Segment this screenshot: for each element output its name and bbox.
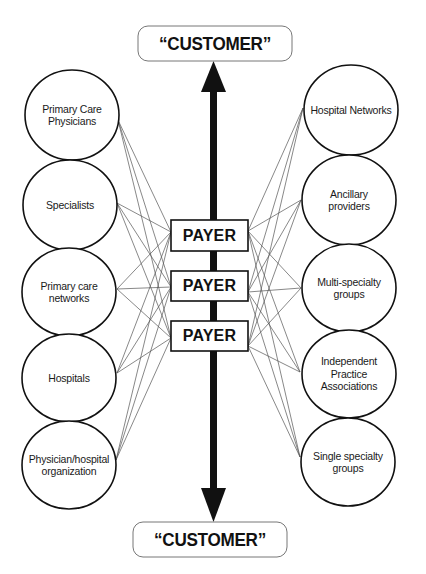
connector-line — [248, 231, 300, 457]
connector-line — [248, 200, 301, 231]
connector-line — [117, 203, 171, 338]
connector-line — [117, 287, 171, 289]
connector-line — [248, 108, 303, 231]
connector-line — [118, 120, 171, 232]
right-node-ancillary-providers: Ancillary providers — [306, 155, 392, 245]
connector-line — [248, 292, 300, 372]
connector-line — [116, 338, 171, 460]
left-node-specialists: Specialists — [27, 160, 113, 250]
connector-line — [117, 287, 171, 373]
payer-box-label: PAYER — [171, 321, 248, 351]
left-node-physician-hospital-organization: Physician/hospital organization — [26, 421, 112, 509]
right-node-multi-specialty-groups: Multi-specialty groups — [306, 244, 392, 332]
arrow-head-down-icon — [201, 488, 226, 522]
connector-line — [248, 288, 301, 292]
customer-top-label: “CUSTOMER” — [146, 26, 285, 61]
connector-line — [248, 292, 300, 457]
connector-line — [248, 346, 300, 457]
connector-line — [118, 120, 171, 338]
left-node-primary-care-networks: Primary care networks — [26, 248, 112, 336]
connector-line — [118, 120, 171, 287]
connector-line — [116, 232, 171, 460]
right-node-independent-practice-associations: Independent Practice Associations — [306, 330, 392, 418]
connector-line — [248, 231, 300, 372]
right-node-single-specialty-groups: Single specialty groups — [305, 418, 391, 506]
connector-line — [248, 108, 303, 346]
payer-box-label: PAYER — [171, 271, 248, 301]
arrow-head-up-icon — [201, 61, 226, 92]
left-node-primary-care-physicians: Primary Care Physicians — [29, 70, 115, 160]
left-node-hospitals: Hospitals — [26, 334, 112, 422]
payer-box-label: PAYER — [171, 220, 248, 251]
connector-line — [248, 231, 301, 288]
connector-line — [248, 108, 303, 292]
right-node-hospital-networks: Hospital Networks — [308, 65, 394, 155]
customer-bottom-label: “CUSTOMER” — [141, 522, 280, 557]
connector-line — [117, 232, 171, 373]
connector-line — [248, 200, 301, 346]
